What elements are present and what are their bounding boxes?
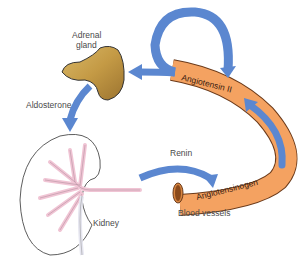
adrenal-label-line1: Adrenal (72, 30, 101, 40)
adrenal-label-line2: gland (76, 40, 97, 50)
kidney-illustration (20, 134, 140, 255)
renin-label: Renin (170, 148, 192, 158)
blood-vessels-label: Blood vessels (178, 208, 230, 218)
raas-diagram: Adrenal gland Aldosterone Renin Kidney B… (0, 0, 307, 270)
aldosterone-label: Aldosterone (26, 100, 72, 110)
kidney-label: Kidney (93, 218, 120, 228)
adrenal-gland-shape (62, 46, 124, 100)
